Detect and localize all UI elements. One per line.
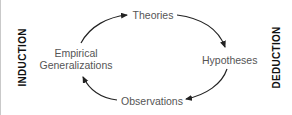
research-cycle-diagram: INDUCTION DEDUCTION Theories Hypotheses … <box>0 0 292 115</box>
cycle-arrows <box>0 0 292 115</box>
arrow-observations-to-generalizations <box>83 77 117 100</box>
arrow-theories-to-hypotheses <box>177 15 225 47</box>
arrow-hypotheses-to-observations <box>186 69 227 99</box>
arrow-generalizations-to-theories <box>81 15 127 43</box>
